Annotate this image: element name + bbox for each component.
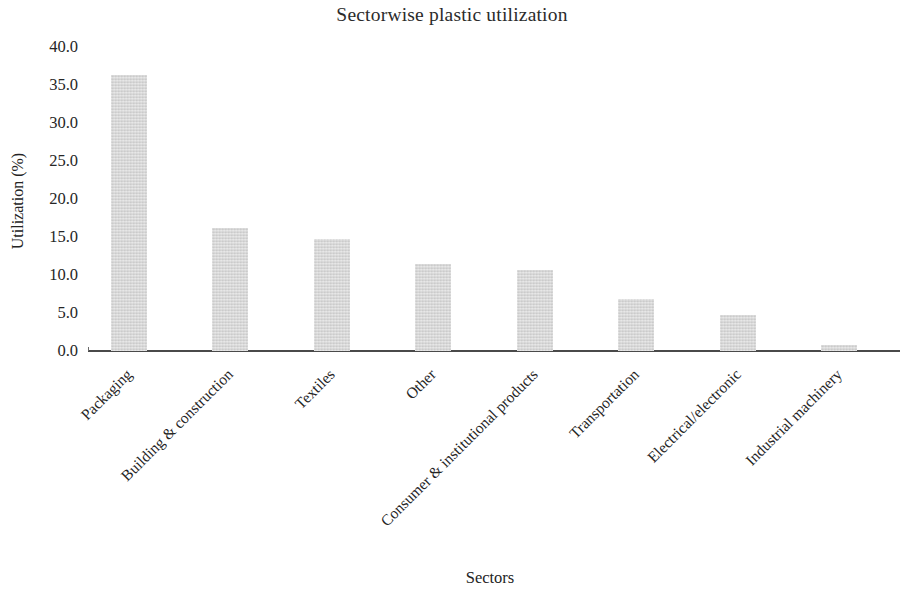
y-axis-tick-label: 20.0 — [22, 191, 78, 207]
y-axis-tick-label: 5.0 — [22, 305, 78, 321]
bar — [314, 239, 350, 351]
bar — [618, 299, 654, 351]
bar — [212, 228, 248, 351]
y-axis-tick-label: 10.0 — [22, 267, 78, 283]
y-axis-tick-labels: 0.05.010.015.020.025.030.035.040.0 — [18, 0, 78, 596]
y-axis-tick-label: 25.0 — [22, 153, 78, 169]
y-axis-tick-label: 15.0 — [22, 229, 78, 245]
chart-title: Sectorwise plastic utilization — [0, 4, 904, 26]
y-axis-tick-label: 40.0 — [22, 39, 78, 55]
x-axis-line — [88, 350, 900, 352]
chart-plot-area: Sectorwise plastic utilization Utilizati… — [0, 0, 904, 596]
x-axis-title: Sectors — [0, 568, 904, 588]
y-axis-tick-label: 30.0 — [22, 115, 78, 131]
bar — [415, 264, 451, 351]
x-axis-origin-tick — [88, 347, 89, 351]
bar — [720, 315, 756, 351]
bar — [821, 345, 857, 351]
bar — [111, 75, 147, 351]
y-axis-tick-label: 0.0 — [22, 343, 78, 359]
bar — [517, 270, 553, 351]
y-axis-tick-label: 35.0 — [22, 77, 78, 93]
